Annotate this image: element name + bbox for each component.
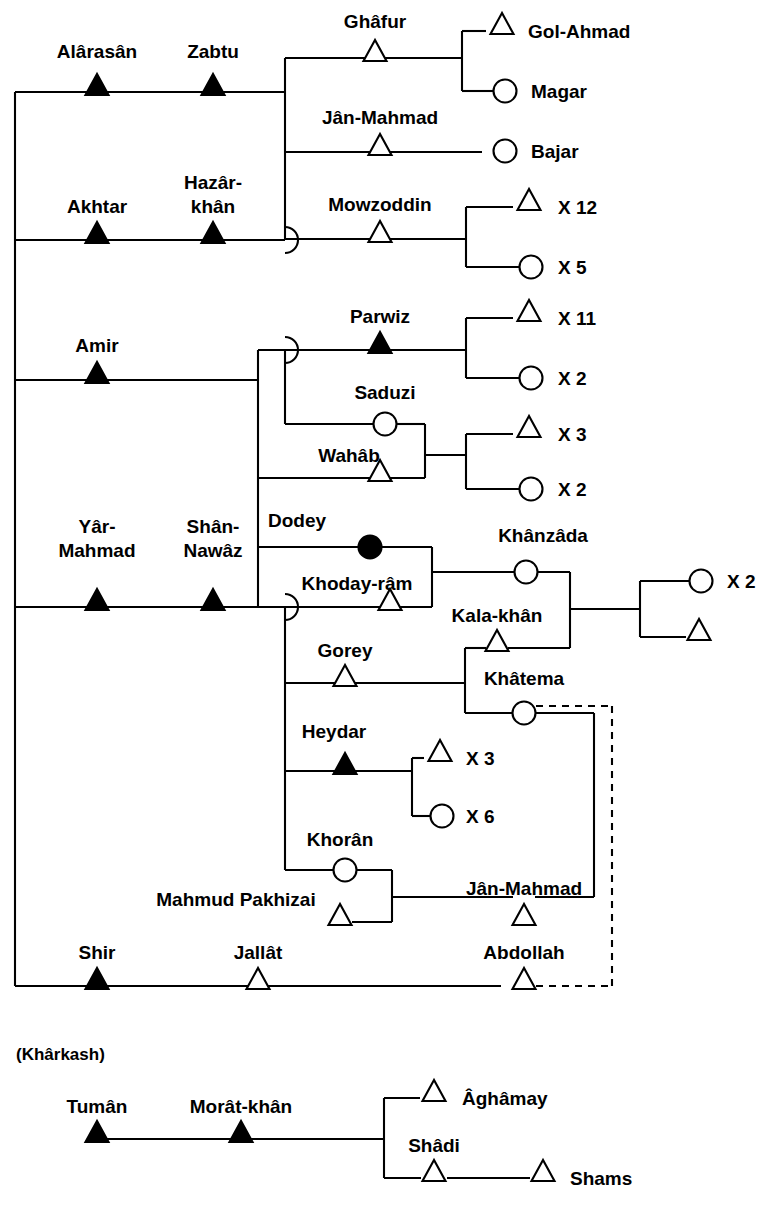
person-node-janmahmad2[interactable] — [513, 904, 536, 925]
person-node-amir[interactable] — [86, 362, 109, 383]
person-node-ghafur[interactable] — [364, 40, 387, 61]
person-node-saduzi[interactable] — [374, 413, 397, 436]
groups-layer: (Khârkash) — [16, 1045, 105, 1064]
labels-layer: AlârasânZabtuGhâfurGol-AhmadMagarJân-Mah… — [57, 11, 756, 1189]
nodes-layer — [86, 13, 713, 1181]
person-label-mowzoddin: Mowzoddin — [328, 194, 431, 215]
person-label-khatema: Khâtema — [484, 668, 565, 689]
group-label-kharkash: (Khârkash) — [16, 1045, 105, 1064]
person-node-khatema[interactable] — [513, 702, 536, 725]
person-label-shadi: Shâdi — [408, 1135, 460, 1156]
person-node-heydar[interactable] — [334, 753, 357, 774]
person-node-khoran[interactable] — [334, 859, 357, 882]
person-node-shannawaz[interactable] — [202, 589, 225, 610]
person-label-jallat: Jallât — [234, 942, 283, 963]
person-label-aghamay: Âghâmay — [462, 1088, 548, 1109]
person-label-sad_daus: X 2 — [558, 479, 587, 500]
person-label-tuman: Tumân — [67, 1096, 128, 1117]
person-label-yarmahmad: Yâr-Mahmad — [58, 516, 135, 561]
person-node-mahmudpakh[interactable] — [329, 904, 352, 925]
person-label-amir: Amir — [75, 335, 119, 356]
person-node-shadi[interactable] — [423, 1160, 446, 1181]
person-node-magar[interactable] — [494, 80, 517, 103]
person-node-parw_sons[interactable] — [518, 300, 541, 321]
person-node-dodey[interactable] — [359, 536, 382, 559]
genealogy-chart: AlârasânZabtuGhâfurGol-AhmadMagarJân-Mah… — [0, 0, 767, 1205]
person-node-mowz_sons[interactable] — [518, 189, 541, 210]
person-node-yarmahmad[interactable] — [86, 589, 109, 610]
person-node-bajar[interactable] — [494, 140, 517, 163]
person-node-mowzoddin[interactable] — [369, 221, 392, 242]
person-label-hey_sons: X 3 — [466, 748, 495, 769]
person-node-shams[interactable] — [532, 1160, 555, 1181]
person-node-mowz_daus[interactable] — [520, 256, 543, 279]
person-node-khanzada[interactable] — [515, 561, 538, 584]
person-node-abdollah[interactable] — [513, 968, 536, 989]
person-node-hazarkhan[interactable] — [202, 222, 225, 243]
person-label-magar: Magar — [531, 81, 588, 102]
person-label-alarasan: Alârasân — [57, 41, 137, 62]
person-label-zabtu: Zabtu — [187, 41, 239, 62]
person-node-gorey[interactable] — [334, 665, 357, 686]
person-node-hey_daus[interactable] — [431, 805, 454, 828]
person-label-kalakhan: Kala-khân — [452, 605, 543, 626]
person-label-hey_daus: X 6 — [466, 806, 495, 827]
person-label-hazarkhan: Hazâr-khân — [184, 172, 242, 217]
person-label-sad_sons: X 3 — [558, 424, 587, 445]
person-label-mowz_sons: X 12 — [558, 197, 597, 218]
person-label-gorey: Gorey — [318, 640, 373, 661]
person-node-hey_sons[interactable] — [429, 740, 452, 761]
person-node-moratkhan[interactable] — [230, 1121, 253, 1142]
person-label-shannawaz: Shân-Nawâz — [183, 516, 242, 561]
person-label-moratkhan: Morât-khân — [190, 1096, 292, 1117]
person-node-golahmad[interactable] — [491, 13, 514, 34]
person-label-wahab: Wahâb — [318, 445, 380, 466]
person-label-abdollah: Abdollah — [483, 942, 564, 963]
person-label-far_dau: X 2 — [727, 571, 756, 592]
person-label-parw_daus: X 2 — [558, 368, 587, 389]
person-label-janmahmad1: Jân-Mahmad — [322, 107, 438, 128]
person-node-parwiz[interactable] — [369, 332, 392, 353]
person-label-shir: Shir — [79, 942, 117, 963]
person-label-janmahmad2: Jân-Mahmad — [466, 878, 582, 899]
person-node-janmahmad1[interactable] — [369, 134, 392, 155]
person-node-tuman[interactable] — [86, 1121, 109, 1142]
person-label-golahmad: Gol-Ahmad — [528, 21, 630, 42]
person-node-shir[interactable] — [86, 968, 109, 989]
person-node-akhtar[interactable] — [86, 222, 109, 243]
person-label-parwiz: Parwiz — [350, 306, 410, 327]
person-node-alarasan[interactable] — [86, 74, 109, 95]
person-label-heydar: Heydar — [302, 721, 367, 742]
person-node-far_dau[interactable] — [690, 570, 713, 593]
person-label-dodey: Dodey — [268, 510, 327, 531]
person-node-zabtu[interactable] — [202, 74, 225, 95]
person-label-ghafur: Ghâfur — [344, 11, 407, 32]
person-label-shams: Shams — [570, 1168, 632, 1189]
person-label-khoran: Khorân — [307, 829, 374, 850]
person-label-saduzi: Saduzi — [354, 382, 415, 403]
person-label-khodayram: Khoday-râm — [302, 573, 413, 594]
person-label-mahmudpakh: Mahmud Pakhizai — [156, 889, 315, 910]
person-node-aghamay[interactable] — [423, 1080, 446, 1101]
person-node-far_son[interactable] — [688, 619, 711, 640]
person-node-kalakhan[interactable] — [486, 630, 509, 651]
person-label-akhtar: Akhtar — [67, 196, 128, 217]
person-node-jallat[interactable] — [247, 968, 270, 989]
person-label-khanzada: Khânzâda — [498, 525, 588, 546]
person-label-mowz_daus: X 5 — [558, 257, 587, 278]
person-label-parw_sons: X 11 — [558, 308, 596, 329]
person-node-sad_daus[interactable] — [520, 478, 543, 501]
person-node-sad_sons[interactable] — [518, 416, 541, 437]
person-label-bajar: Bajar — [531, 141, 579, 162]
person-node-parw_daus[interactable] — [520, 367, 543, 390]
